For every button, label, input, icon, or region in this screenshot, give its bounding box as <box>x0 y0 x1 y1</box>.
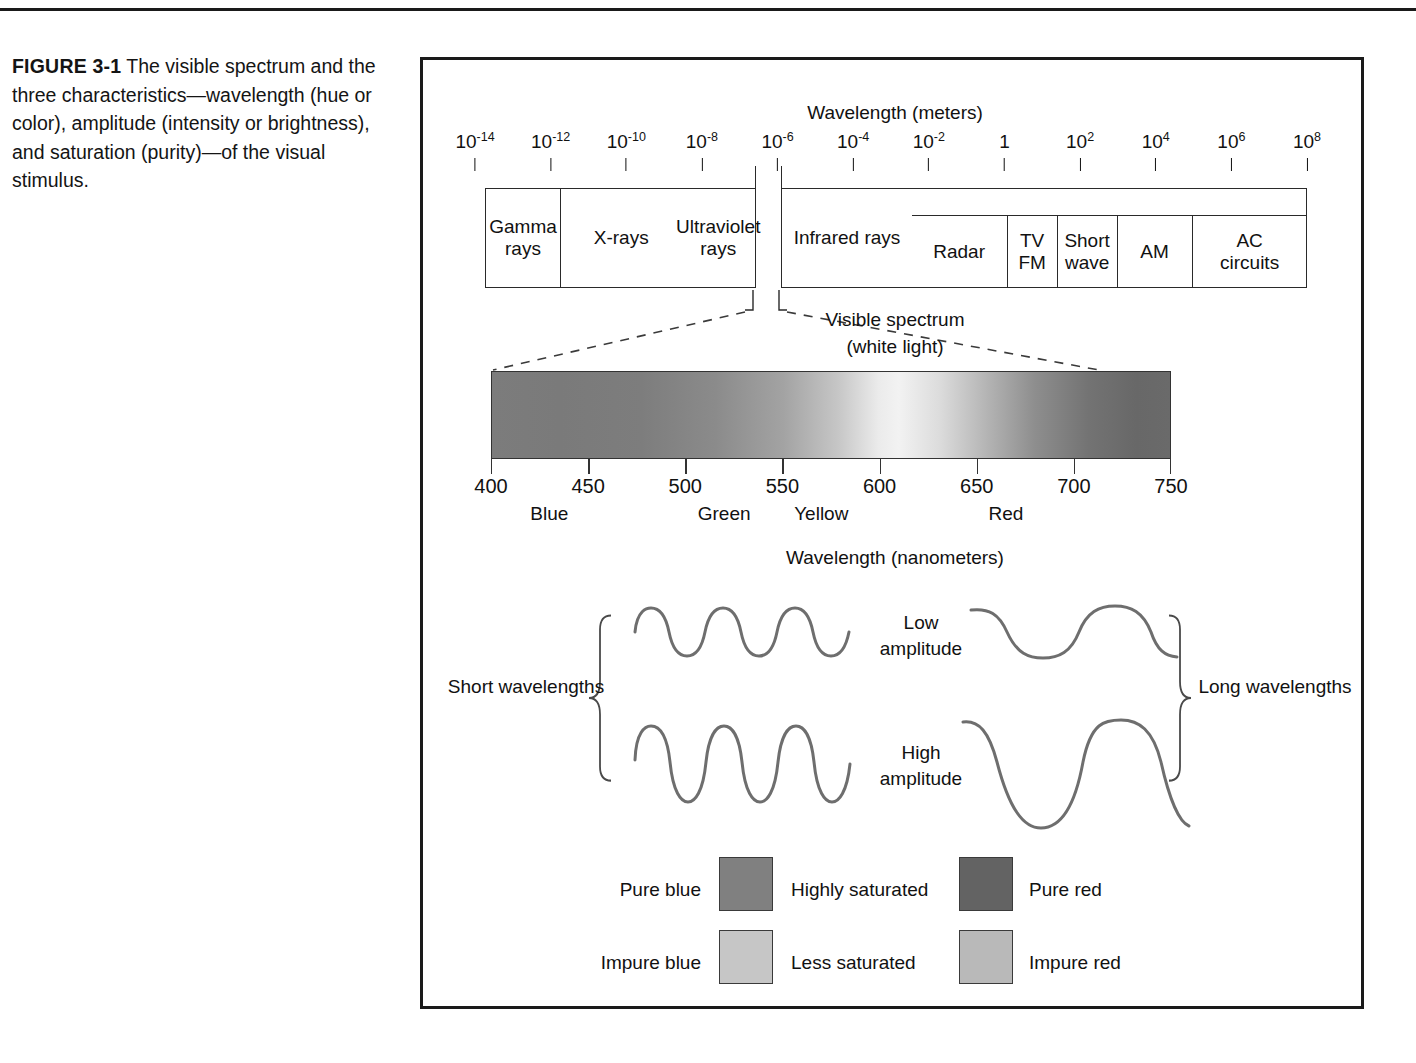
em-tick-mark <box>928 158 929 171</box>
hue-label-green: Green <box>698 503 751 525</box>
highly-saturated-label: Highly saturated <box>791 878 928 902</box>
figure-caption: FIGURE 3-1 The visible spectrum and the … <box>12 52 394 195</box>
em-tick-mark <box>777 158 778 171</box>
page-header-rule <box>0 8 1416 11</box>
em-tick-3: 10-8 <box>686 132 718 171</box>
em-tick-5: 10-4 <box>837 132 869 171</box>
em-subband-ac-circuits: ACcircuits <box>1192 215 1307 287</box>
impure-blue-label: Impure blue <box>601 951 701 975</box>
em-band-label: Gamma rays <box>486 216 560 260</box>
figure-frame: Wavelength (meters) 10-1410-1210-1010-81… <box>420 57 1364 1009</box>
nm-tick-label: 450 <box>571 475 604 498</box>
impure-red-label: Impure red <box>1029 951 1121 975</box>
visible-spectrum-label: Visible spectrum (white light) <box>423 306 1367 360</box>
em-tick-4: 10-6 <box>761 132 793 171</box>
em-scale: 10-1410-1210-1010-810-610-410-2110210410… <box>423 132 1367 187</box>
em-tick-mark <box>701 158 702 171</box>
em-tick-label: 102 <box>1066 132 1094 152</box>
em-tick-0: 10-14 <box>455 132 494 171</box>
visible-spectrum-bar <box>491 371 1171 459</box>
em-radio-group: RadarTVFMShortwaveAMACcircuits <box>912 188 1307 288</box>
visible-slice-edge-0 <box>755 166 756 288</box>
callout-line-2: (white light) <box>423 333 1367 360</box>
high-amplitude-label: High amplitude <box>861 740 981 792</box>
nm-tick-label: 550 <box>766 475 799 498</box>
em-subband-label: TVFM <box>1018 230 1045 274</box>
em-subband-radar: Radar <box>912 215 1007 287</box>
em-tick-label: 10-10 <box>607 132 646 152</box>
em-tick-11: 108 <box>1293 132 1321 171</box>
pure-blue-label: Pure blue <box>620 878 701 902</box>
em-tick-label: 10-12 <box>531 132 570 152</box>
less-saturated-label: Less saturated <box>791 951 916 975</box>
long-wavelengths-label: Long wavelengths <box>1195 674 1355 700</box>
em-tick-label: 106 <box>1217 132 1245 152</box>
hue-label-yellow: Yellow <box>794 503 848 525</box>
em-tick-mark <box>1231 158 1232 171</box>
nm-tick-label: 650 <box>960 475 993 498</box>
swatch-impure-red <box>959 930 1013 984</box>
nm-tick-mark-400 <box>491 459 492 474</box>
nanometer-scale: 400450500550600650700750BlueGreenYellowR… <box>491 459 1171 477</box>
em-tick-mark <box>1307 158 1308 171</box>
short-wavelengths-label: Short wavelengths <box>445 674 607 700</box>
nm-tick-label: 500 <box>669 475 702 498</box>
em-subband-label: AM <box>1140 241 1169 263</box>
em-tick-6: 10-2 <box>913 132 945 171</box>
em-tick-mark <box>1155 158 1156 171</box>
nm-scale-title: Wavelength (nanometers) <box>423 547 1367 569</box>
em-tick-mark <box>853 158 854 171</box>
em-band-label: Infrared rays <box>794 227 901 249</box>
hue-label-blue: Blue <box>530 503 568 525</box>
callout-line-1: Visible spectrum <box>423 306 1367 333</box>
em-tick-2: 10-10 <box>607 132 646 171</box>
em-tick-mark <box>475 158 476 171</box>
em-band-ultraviolet-rays: Ultraviolet rays <box>681 188 756 288</box>
em-band-label: X-rays <box>594 227 649 249</box>
em-subband-label: Shortwave <box>1064 230 1109 274</box>
em-tick-7: 1 <box>999 132 1010 171</box>
em-tick-8: 102 <box>1066 132 1094 171</box>
em-band-x-rays: X-rays <box>561 188 682 288</box>
nm-tick-label: 700 <box>1057 475 1090 498</box>
em-tick-mark <box>626 158 627 171</box>
swatch-pure-blue <box>719 857 773 911</box>
nm-tick-label: 600 <box>863 475 896 498</box>
nm-tick-mark-700 <box>1074 459 1075 474</box>
em-tick-label: 108 <box>1293 132 1321 152</box>
em-subband-label: Radar <box>933 241 985 263</box>
em-subband-tv-fm: TVFM <box>1007 215 1057 287</box>
em-band-gamma-rays: Gamma rays <box>485 188 561 288</box>
wave-amplitude-section: Short wavelengths Long wavelengths Low a… <box>423 580 1367 830</box>
wave-short-low-amplitude <box>635 608 849 656</box>
em-tick-10: 106 <box>1217 132 1245 171</box>
nm-tick-mark-750 <box>1170 459 1171 474</box>
wave-long-low-amplitude <box>971 606 1177 658</box>
nm-tick-label: 400 <box>474 475 507 498</box>
em-subband-label: ACcircuits <box>1220 230 1279 274</box>
wave-short-high-amplitude <box>635 726 850 802</box>
em-band-infrared-rays: Infrared rays <box>781 188 913 288</box>
nm-tick-mark-650 <box>977 459 978 474</box>
em-tick-label: 10-4 <box>837 132 869 152</box>
em-tick-mark <box>1080 158 1081 171</box>
em-tick-9: 104 <box>1142 132 1170 171</box>
em-tick-1: 10-12 <box>531 132 570 171</box>
em-band-label: Ultraviolet rays <box>676 216 760 260</box>
right-brace-icon <box>1169 615 1191 780</box>
nm-tick-mark-550 <box>782 459 783 474</box>
em-tick-label: 10-2 <box>913 132 945 152</box>
em-tick-label: 10-6 <box>761 132 793 152</box>
nm-tick-mark-600 <box>880 459 881 474</box>
saturation-section: Pure blue Highly saturated Pure red Impu… <box>423 835 1367 985</box>
em-tick-label: 10-14 <box>455 132 494 152</box>
wave-long-high-amplitude <box>963 720 1189 828</box>
em-tick-mark <box>550 158 551 171</box>
figure-number: FIGURE 3-1 <box>12 55 121 77</box>
figure-content: Wavelength (meters) 10-1410-1210-1010-81… <box>423 60 1367 1012</box>
em-scale-title: Wavelength (meters) <box>423 102 1367 124</box>
swatch-impure-blue <box>719 930 773 984</box>
em-subband-am: AM <box>1117 215 1192 287</box>
em-tick-label: 104 <box>1142 132 1170 152</box>
low-amplitude-label: Low amplitude <box>861 610 981 662</box>
